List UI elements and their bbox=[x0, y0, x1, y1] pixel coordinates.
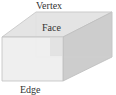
face-label: Face bbox=[42, 22, 61, 33]
inner-shade bbox=[50, 37, 63, 56]
vertex-label: Vertex bbox=[36, 0, 62, 11]
edge-label: Edge bbox=[20, 84, 41, 95]
prism-diagram: Vertex Face Edge bbox=[0, 0, 116, 95]
